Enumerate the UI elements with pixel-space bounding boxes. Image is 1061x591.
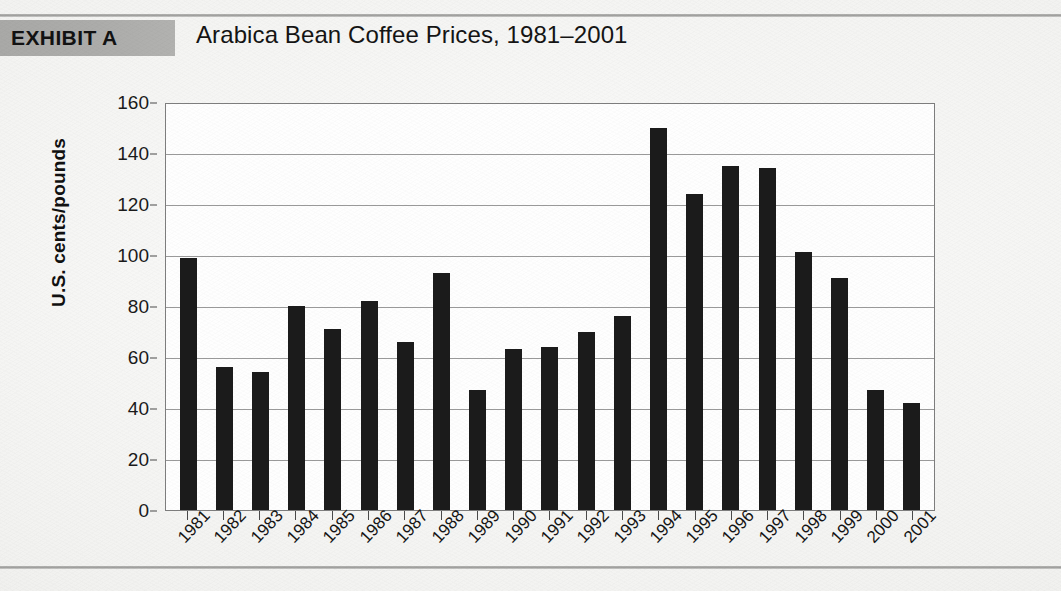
y-axis-tick-mark: [150, 154, 157, 155]
bar: [903, 403, 920, 510]
bar-slot: [460, 104, 496, 510]
x-axis-label-slot: 1999: [822, 512, 858, 572]
bar: [397, 342, 414, 510]
bar: [686, 194, 703, 510]
chart-plot-area: [165, 103, 935, 511]
bar: [252, 372, 269, 510]
bar: [433, 273, 450, 510]
bar-slot: [170, 104, 206, 510]
bar-slot: [315, 104, 351, 510]
x-axis-label-slot: 1984: [278, 512, 314, 572]
x-axis-label-slot: 1981: [169, 512, 205, 572]
x-axis-label-slot: 1992: [568, 512, 604, 572]
x-axis-tick-labels: 1981198219831984198519861987198819891990…: [165, 512, 935, 572]
bar: [831, 278, 848, 510]
bar-slot: [242, 104, 278, 510]
bar-slot: [749, 104, 785, 510]
x-axis-label-slot: 2000: [858, 512, 894, 572]
bar: [505, 349, 522, 510]
x-axis-label-slot: 1995: [677, 512, 713, 572]
bar-slot: [894, 104, 930, 510]
x-axis-tick-label: 2001: [900, 506, 940, 547]
y-axis-tick-mark: [150, 205, 157, 206]
x-axis-label-slot: 1983: [242, 512, 278, 572]
y-axis-tick-label: 40: [128, 398, 149, 420]
bar-slot: [785, 104, 821, 510]
bar: [759, 168, 776, 510]
bar: [216, 367, 233, 510]
bar-slot: [713, 104, 749, 510]
x-axis-label-slot: 1998: [786, 512, 822, 572]
y-axis-tick-label: 20: [128, 449, 149, 471]
bar: [361, 301, 378, 510]
y-axis-tick-label: 60: [128, 347, 149, 369]
x-axis-label-slot: 1986: [350, 512, 386, 572]
y-axis-tick-mark: [150, 307, 157, 308]
bar-slot: [858, 104, 894, 510]
bar-slot: [387, 104, 423, 510]
bar: [650, 128, 667, 511]
x-axis-label-slot: 1990: [496, 512, 532, 572]
x-axis-label-slot: 1994: [641, 512, 677, 572]
y-axis-tick-label: 120: [117, 194, 149, 216]
y-axis-tick-mark: [150, 358, 157, 359]
bar: [795, 252, 812, 510]
y-axis-tick-label: 100: [117, 245, 149, 267]
y-axis-label: U.S. cents/pounds: [48, 138, 70, 307]
bar-slot: [821, 104, 857, 510]
page-title: Arabica Bean Coffee Prices, 1981–2001: [196, 21, 628, 49]
y-axis-tick-mark: [150, 460, 157, 461]
bar: [722, 166, 739, 510]
x-axis-label-slot: 1991: [532, 512, 568, 572]
bar: [578, 332, 595, 511]
bar: [324, 329, 341, 510]
bar: [288, 306, 305, 510]
bar-slot: [532, 104, 568, 510]
y-axis-tick-label: 140: [117, 143, 149, 165]
bar-slot: [604, 104, 640, 510]
bar-slot: [640, 104, 676, 510]
bar-slot: [279, 104, 315, 510]
x-axis-label-slot: 1987: [387, 512, 423, 572]
bar: [867, 390, 884, 510]
x-axis-label-slot: 1993: [604, 512, 640, 572]
bar-slot: [568, 104, 604, 510]
y-axis-tick-mark: [150, 256, 157, 257]
x-axis-label-slot: 2001: [895, 512, 931, 572]
bar-slot: [206, 104, 242, 510]
y-axis-tick-mark: [150, 409, 157, 410]
x-axis-label-slot: 1982: [205, 512, 241, 572]
x-axis-label-slot: 1989: [459, 512, 495, 572]
bar-slot: [677, 104, 713, 510]
x-axis-label-slot: 1985: [314, 512, 350, 572]
y-axis-tick-mark: [150, 103, 157, 104]
x-axis-label-slot: 1996: [713, 512, 749, 572]
exhibit-badge-band: EXHIBIT A: [0, 20, 175, 56]
y-axis-tick-label: 160: [117, 92, 149, 114]
bar: [541, 347, 558, 510]
bar: [180, 258, 197, 510]
exhibit-badge-label: EXHIBIT A: [0, 26, 118, 50]
bar: [469, 390, 486, 510]
y-axis-tick-label: 0: [138, 500, 149, 522]
bar-slot: [496, 104, 532, 510]
bar-series: [166, 104, 934, 510]
y-axis-tick-mark: [150, 511, 157, 512]
top-divider-rule: [0, 14, 1061, 17]
y-axis-tick-label: 80: [128, 296, 149, 318]
bar-slot: [351, 104, 387, 510]
bar-slot: [423, 104, 459, 510]
x-axis-label-slot: 1997: [750, 512, 786, 572]
y-axis-tick-labels: 160140120100806040200: [95, 103, 157, 511]
bar: [614, 316, 631, 510]
x-axis-label-slot: 1988: [423, 512, 459, 572]
